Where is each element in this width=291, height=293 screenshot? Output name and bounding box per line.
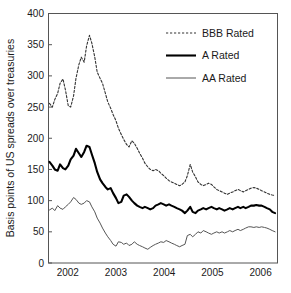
y-tick-label: 150 <box>27 164 44 175</box>
x-tick-label: 2006 <box>250 267 273 278</box>
y-tick-label: 250 <box>27 102 44 113</box>
x-tick-label: 2003 <box>105 267 128 278</box>
y-tick-label: 300 <box>27 70 44 81</box>
x-tick-label: 2005 <box>201 267 224 278</box>
y-tick-label: 400 <box>27 8 44 19</box>
y-tick-label: 100 <box>27 195 44 206</box>
line-chart-figure: 050100150200250300350400 200220032004200… <box>0 0 291 293</box>
y-tick-label: 50 <box>33 226 45 237</box>
y-tick-label: 0 <box>38 258 44 269</box>
legend-label-bbb-rated: BBB Rated <box>202 27 254 39</box>
y-tick-label: 350 <box>27 39 44 50</box>
legend-label-aa-rated: AA Rated <box>202 72 247 84</box>
y-axis-title: Basis points of US spreads over treasuri… <box>4 39 16 237</box>
x-tick-label: 2002 <box>57 267 80 278</box>
y-tick-label: 200 <box>27 133 44 144</box>
chart-canvas: 050100150200250300350400 200220032004200… <box>0 0 291 293</box>
legend-label-a-rated: A Rated <box>202 49 240 61</box>
x-tick-label: 2004 <box>153 267 176 278</box>
